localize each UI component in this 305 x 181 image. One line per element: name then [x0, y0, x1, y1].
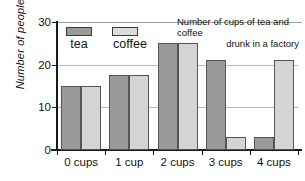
x-axis-label-3-cups: 3 cups — [209, 156, 243, 168]
x-tick-mark-1 — [105, 150, 106, 155]
x-axis-label-1-cup: 1 cup — [115, 156, 143, 168]
bar-tea-3-cups — [206, 60, 226, 150]
bar-coffee-3-cups — [226, 137, 246, 150]
legend-swatch-row — [64, 27, 154, 36]
x-axis-label-0-cups: 0 cups — [64, 156, 98, 168]
legend-label-coffee: coffee — [106, 37, 154, 51]
y-tick-mark-30 — [52, 22, 58, 23]
bar-tea-1-cup — [109, 75, 129, 150]
bar-coffee-4-cups — [274, 60, 294, 150]
x-tick-mark-3 — [202, 150, 203, 155]
y-tick-label-30: 30 — [38, 16, 51, 28]
x-tick-mark-4 — [250, 150, 251, 155]
chart-title: Number of cups of tea and coffee drunk i… — [177, 16, 305, 49]
bar-tea-2-cups — [158, 43, 178, 150]
y-tick-mark-10 — [52, 107, 58, 108]
chart-title-line-1: Number of cups of tea and coffee — [177, 16, 305, 38]
bar-coffee-0-cups — [81, 86, 101, 150]
y-tick-label-0: 0 — [45, 144, 51, 156]
legend-swatch-tea — [66, 27, 92, 36]
y-tick-mark-20 — [52, 65, 58, 66]
legend-swatch-coffee — [112, 27, 138, 36]
y-axis-line — [56, 21, 58, 151]
bar-tea-0-cups — [61, 86, 81, 150]
x-tick-mark-2 — [153, 150, 154, 155]
y-axis-title: Number of people — [14, 0, 26, 104]
legend-label-row: tea coffee — [64, 37, 154, 51]
x-axis-label-4-cups: 4 cups — [257, 156, 291, 168]
x-tick-mark-end — [298, 150, 299, 155]
bar-chart: Number of people Number of cups of tea a… — [0, 0, 305, 181]
x-tick-mark-0 — [57, 150, 58, 155]
x-axis-label-2-cups: 2 cups — [161, 156, 195, 168]
legend-swatch-coffee-wrap — [110, 27, 140, 36]
legend-label-tea: tea — [64, 37, 94, 51]
bar-tea-4-cups — [254, 137, 274, 150]
bar-coffee-1-cup — [129, 75, 149, 150]
chart-title-line-2: drunk in a factory — [177, 38, 305, 49]
legend: tea coffee — [64, 27, 154, 51]
legend-swatch-tea-wrap — [64, 27, 94, 36]
bar-coffee-2-cups — [178, 43, 198, 150]
y-tick-label-20: 20 — [38, 59, 51, 71]
y-tick-label-10: 10 — [38, 101, 51, 113]
